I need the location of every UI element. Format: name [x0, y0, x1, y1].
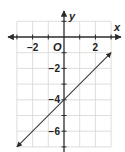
x-axis-label: x: [113, 21, 121, 33]
x-tick-label: 2: [93, 42, 99, 53]
coordinate-plane: x y O −22−2−4−6: [0, 0, 125, 152]
y-axis-label: y: [68, 10, 76, 22]
origin-label: O: [53, 41, 62, 53]
y-tick-label: −4: [49, 94, 61, 105]
y-tick-label: −6: [49, 126, 61, 137]
y-tick-label: −2: [49, 63, 61, 74]
x-tick-label: −2: [27, 42, 39, 53]
labels-layer: x y O −22−2−4−6: [27, 10, 121, 137]
